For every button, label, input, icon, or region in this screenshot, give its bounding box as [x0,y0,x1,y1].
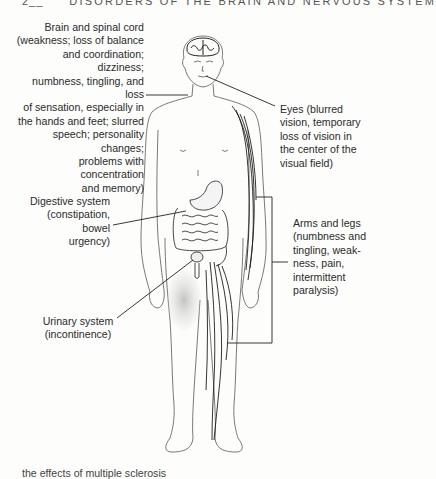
label-line: and memory) [14,182,144,195]
label-brain-spinal-cord: Brain and spinal cord (weakness; loss of… [14,21,144,195]
label-line: intermittent [293,271,379,284]
label-line: problems with concentration [14,155,144,182]
label-line: loss of vision in [280,130,376,143]
label-line: the center of the [280,143,376,156]
label-line: speech; personality changes; [14,128,144,155]
label-line: Arms and legs [293,217,379,230]
label-line: vision, temporary [280,116,376,129]
label-digestive-system: Digestive system (constipation, bowel ur… [18,195,110,249]
label-line: Digestive system [18,195,110,208]
label-line: (incontinence) [42,328,114,341]
label-line: Urinary system [42,315,114,328]
label-line: visual field) [280,157,376,170]
label-line: and coordination; dizziness; [14,48,144,75]
label-line: tingling, weak- [293,244,379,257]
label-line: Eyes (blurred [280,103,376,116]
label-urinary-system: Urinary system (incontinence) [42,315,114,342]
label-line: ness, pain, [293,257,379,270]
label-line: urgency) [18,235,110,248]
digestive-leader [113,211,186,225]
label-line: paralysis) [293,284,379,297]
label-line: (numbness and [293,230,379,243]
figure-caption: the effects of multiple sclerosis [22,467,166,479]
thigh-shading [167,270,201,330]
label-line: Brain and spinal cord [14,21,144,34]
eyes-leader [206,76,275,106]
label-line: the hands and feet; slurred [14,115,144,128]
label-line: (constipation, bowel [18,208,110,235]
label-arms-legs: Arms and legs (numbness and tingling, we… [293,217,379,297]
label-line: of sensation, especially in [14,101,144,114]
label-line: (weakness; loss of balance [14,34,144,47]
brain-icon [187,38,219,56]
body-outline [141,36,266,452]
label-eyes: Eyes (blurred vision, temporary loss of … [280,103,376,170]
label-line: numbness, tingling, and loss [14,75,144,102]
